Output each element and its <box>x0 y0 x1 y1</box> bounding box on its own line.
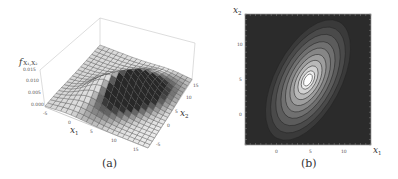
surface-mesh <box>45 45 192 148</box>
caption-a: (a) <box>102 157 117 170</box>
z-axis-label: fX₁,X₂ <box>18 57 37 67</box>
surface-plot: 0.015 0.010 0.005 0.000 fX₁,X₂ -5 0 5 10… <box>0 0 200 179</box>
x-tick: 10 <box>111 138 117 143</box>
y-tick: 0 <box>239 112 242 117</box>
y-tick: 10 <box>186 95 192 100</box>
z-tick: 0.000 <box>31 102 44 107</box>
x-tick: -5 <box>43 111 48 116</box>
surface-plot-panel: 0.015 0.010 0.005 0.000 fX₁,X₂ -5 0 5 10… <box>0 0 200 179</box>
contour-plot: 0 5 10 10 5 0 x2 x1 <box>200 0 398 179</box>
y-tick: -5 <box>156 142 161 147</box>
x-tick: 15 <box>133 147 139 152</box>
y-tick: 15 <box>193 83 199 88</box>
x-axis-label: x1 <box>70 125 79 136</box>
z-tick: 0.010 <box>26 78 39 83</box>
y-tick: 0 <box>167 123 170 128</box>
y-axis-label: x2 <box>180 108 189 119</box>
y-tick: 10 <box>237 42 243 47</box>
y-tick: 5 <box>175 109 178 114</box>
y-axis-label: x2 <box>233 5 242 16</box>
x-tick: 10 <box>341 149 347 154</box>
contour-plot-panel: 0 5 10 10 5 0 x2 x1 (b) <box>200 0 398 179</box>
x-tick: 5 <box>309 149 312 154</box>
x-axis-label: x1 <box>373 145 382 156</box>
y-tick: 5 <box>239 77 242 82</box>
x-tick: 0 <box>275 149 278 154</box>
z-tick: 0.005 <box>28 90 41 95</box>
caption-b: (b) <box>301 157 317 170</box>
z-tick: 0.015 <box>23 67 36 72</box>
x-tick: 5 <box>90 129 93 134</box>
